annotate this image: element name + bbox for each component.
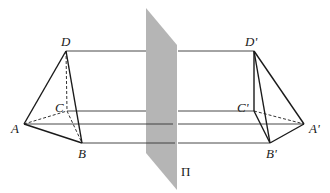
edge-db: [66, 51, 82, 143]
tetrahedron-abcd: [24, 51, 82, 143]
label-a: A: [10, 121, 19, 136]
plane-pi: [146, 8, 177, 190]
label-plane-pi: Π: [181, 164, 190, 179]
edge-d-b-prime: [254, 51, 270, 143]
edge-ab: [24, 124, 82, 143]
edge-dc: [66, 51, 67, 111]
label-d-prime: D': [244, 34, 257, 49]
label-b: B: [78, 146, 86, 161]
edge-b-a-prime: [270, 124, 304, 143]
label-c-prime: C': [237, 100, 249, 115]
label-c: C: [55, 100, 64, 115]
tetrahedron-a-b-c-d-prime: [254, 51, 304, 143]
label-a-prime: A': [308, 121, 320, 136]
label-d: D: [60, 34, 71, 49]
reflection-diagram: D C A B D' C' A' B' Π: [0, 0, 330, 193]
label-b-prime: B': [266, 146, 277, 161]
